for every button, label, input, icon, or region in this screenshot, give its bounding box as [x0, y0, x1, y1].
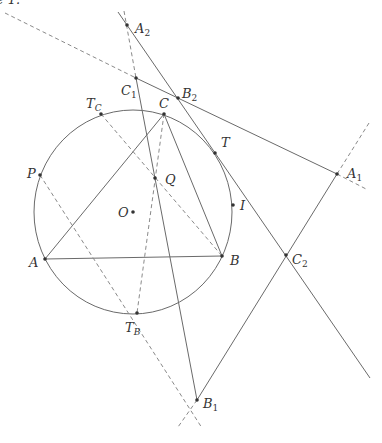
- point-C1: [134, 76, 138, 80]
- label-O: O: [118, 205, 129, 220]
- point-TB: [135, 311, 139, 315]
- point-B2: [176, 96, 180, 100]
- label-C2: C2: [292, 252, 308, 269]
- point-A1: [335, 172, 339, 176]
- line-A1-B1: [197, 174, 337, 400]
- label-A: A: [28, 255, 38, 270]
- label-TC: TC: [86, 96, 102, 113]
- label-B2: B2: [181, 86, 197, 103]
- point-C2: [284, 253, 288, 257]
- dash-tangent-C1: [5, 13, 136, 78]
- dashed-lines: [5, 11, 369, 428]
- point-P: [38, 173, 42, 177]
- solid-lines: [45, 12, 370, 400]
- label-A1: A1: [346, 166, 362, 183]
- label-C1: C1: [121, 83, 137, 100]
- label-I: I: [239, 198, 246, 213]
- side-AB: [45, 256, 222, 259]
- geometry-diagram: e 1. A2C1B2TCCTA1PQOIABC2TBB1: [0, 0, 382, 443]
- line-C1-B1: [136, 78, 197, 400]
- label-TB: TB: [125, 320, 141, 337]
- dash-C-TB: [137, 114, 164, 313]
- point-A2: [125, 23, 129, 27]
- point-B1: [195, 398, 199, 402]
- dash-B1-ext: [178, 400, 197, 427]
- point-A: [43, 257, 47, 261]
- caption-fragment: e 1.: [0, 0, 20, 7]
- side-CA: [45, 114, 164, 259]
- point-B: [220, 254, 224, 258]
- point-I: [231, 203, 235, 207]
- point-C: [162, 112, 166, 116]
- point-O: [131, 210, 135, 214]
- point-Q: [153, 176, 157, 180]
- label-B1: B1: [202, 396, 218, 413]
- point-T: [213, 151, 217, 155]
- label-C: C: [159, 96, 169, 111]
- label-P: P: [26, 166, 36, 181]
- label-A2: A2: [134, 21, 150, 38]
- line-A2-C2: [118, 12, 370, 378]
- label-T: T: [221, 135, 231, 150]
- label-B: B: [229, 253, 240, 268]
- label-Q: Q: [165, 172, 176, 187]
- points: A2C1B2TCCTA1PQOIABC2TBB1: [26, 21, 362, 413]
- line-C1-A1: [136, 78, 337, 174]
